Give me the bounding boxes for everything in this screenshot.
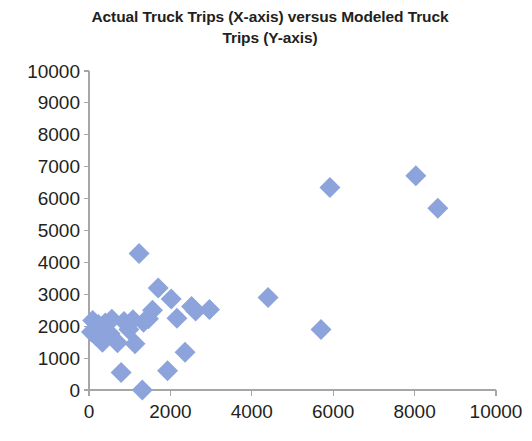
x-tick-label: 4000 xyxy=(231,401,273,422)
data-point xyxy=(129,243,150,264)
scatter-chart: Actual Truck Trips (X-axis) versus Model… xyxy=(0,0,532,441)
data-point xyxy=(111,362,132,383)
x-tick-label: 10000 xyxy=(470,401,523,422)
x-axis-tick-labels: 0200040006000800010000 xyxy=(84,401,523,422)
y-tick-label: 10000 xyxy=(27,61,80,82)
data-point xyxy=(319,177,340,198)
data-point xyxy=(199,299,220,320)
x-tick-label: 0 xyxy=(84,401,95,422)
data-point xyxy=(258,287,279,308)
y-tick-label: 7000 xyxy=(38,156,80,177)
y-tick-label: 2000 xyxy=(38,316,80,337)
y-axis-tick-marks xyxy=(84,71,89,390)
data-point xyxy=(166,308,187,329)
data-point xyxy=(427,198,448,219)
plot-area: 0100020003000400050006000700080009000100… xyxy=(0,0,532,441)
y-tick-label: 5000 xyxy=(38,220,80,241)
y-tick-label: 8000 xyxy=(38,124,80,145)
x-tick-label: 8000 xyxy=(393,401,435,422)
data-point xyxy=(175,342,196,363)
data-point xyxy=(157,360,178,381)
data-point xyxy=(132,380,153,401)
x-tick-label: 6000 xyxy=(312,401,354,422)
data-point-group xyxy=(81,165,448,400)
x-tick-label: 2000 xyxy=(149,401,191,422)
y-tick-label: 0 xyxy=(69,380,80,401)
data-point xyxy=(310,319,331,340)
y-tick-label: 3000 xyxy=(38,284,80,305)
data-point xyxy=(405,165,426,186)
y-axis-tick-labels: 0100020003000400050006000700080009000100… xyxy=(27,61,80,401)
y-tick-label: 4000 xyxy=(38,252,80,273)
y-tick-label: 1000 xyxy=(38,348,80,369)
y-tick-label: 9000 xyxy=(38,92,80,113)
y-tick-label: 6000 xyxy=(38,188,80,209)
